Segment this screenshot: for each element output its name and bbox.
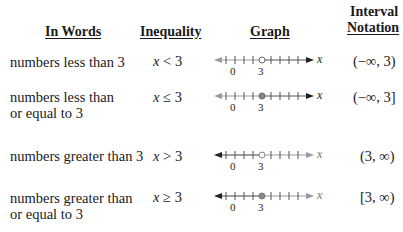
ineq-variable: x (153, 53, 159, 69)
number-line-svg (212, 147, 322, 177)
number-line-graph: 0 3 x (212, 188, 322, 222)
row-interval: [3, ∞) (360, 189, 395, 206)
closed-endpoint-icon (259, 93, 265, 99)
arrow-left-icon (214, 152, 222, 158)
row-words-line1: numbers greater than (10, 190, 132, 206)
tick-label-0: 0 (230, 101, 236, 113)
number-line-svg (212, 188, 322, 218)
number-line-graph: 0 3 x (212, 52, 322, 86)
ineq-operator: < (163, 53, 171, 69)
ineq-value: 3 (175, 148, 182, 164)
arrow-left-icon (214, 93, 222, 99)
row-words-line2: or equal to 3 (10, 206, 83, 222)
header-interval-line2: Notation (347, 20, 399, 36)
number-line-graph: 0 3 x (212, 88, 322, 122)
header-in-words: In Words (45, 24, 101, 40)
tick-label-0: 0 (230, 65, 236, 77)
ineq-operator: ≥ (163, 189, 171, 205)
number-line-svg (212, 88, 322, 118)
row-inequality: x < 3 (153, 53, 182, 70)
arrow-left-icon (214, 57, 222, 63)
row-interval: (−∞, 3] (353, 89, 396, 106)
row-words: numbers greater than 3 (10, 148, 143, 164)
tick-label-0: 0 (230, 201, 236, 213)
row-words: numbers less than 3 (10, 54, 125, 70)
number-line-svg (212, 52, 322, 82)
open-endpoint-icon (259, 57, 265, 63)
ineq-variable: x (153, 148, 159, 164)
tick-label-3: 3 (258, 160, 264, 172)
header-graph: Graph (250, 24, 290, 40)
arrow-right-icon (306, 193, 314, 199)
arrow-right-icon (306, 93, 314, 99)
ineq-value: 3 (175, 53, 182, 69)
axis-label: x (317, 147, 322, 162)
tick-label-3: 3 (258, 65, 264, 77)
ineq-value: 3 (175, 189, 182, 205)
row-words-line2: or equal to 3 (10, 105, 83, 121)
row-words-line1: numbers less than (10, 89, 114, 105)
number-line-graph: 0 3 x (212, 147, 322, 181)
ineq-variable: x (153, 89, 159, 105)
axis-label: x (317, 52, 322, 67)
row-interval: (−∞, 3) (353, 53, 396, 70)
axis-label: x (317, 88, 322, 103)
tick-label-0: 0 (230, 160, 236, 172)
tick-label-3: 3 (258, 201, 264, 213)
arrow-left-icon (214, 193, 222, 199)
row-inequality: x ≥ 3 (153, 189, 182, 206)
header-inequality: Inequality (140, 24, 201, 40)
ineq-value: 3 (175, 89, 182, 105)
axis-label: x (317, 188, 322, 203)
ineq-operator: ≤ (163, 89, 171, 105)
ineq-variable: x (153, 189, 159, 205)
closed-endpoint-icon (259, 193, 265, 199)
header-interval-line1: Interval (350, 4, 398, 20)
arrow-right-icon (306, 57, 314, 63)
arrow-right-icon (306, 152, 314, 158)
row-interval: (3, ∞) (360, 148, 395, 165)
tick-label-3: 3 (258, 101, 264, 113)
row-inequality: x ≤ 3 (153, 89, 182, 106)
ineq-operator: > (163, 148, 171, 164)
row-inequality: x > 3 (153, 148, 182, 165)
open-endpoint-icon (259, 152, 265, 158)
